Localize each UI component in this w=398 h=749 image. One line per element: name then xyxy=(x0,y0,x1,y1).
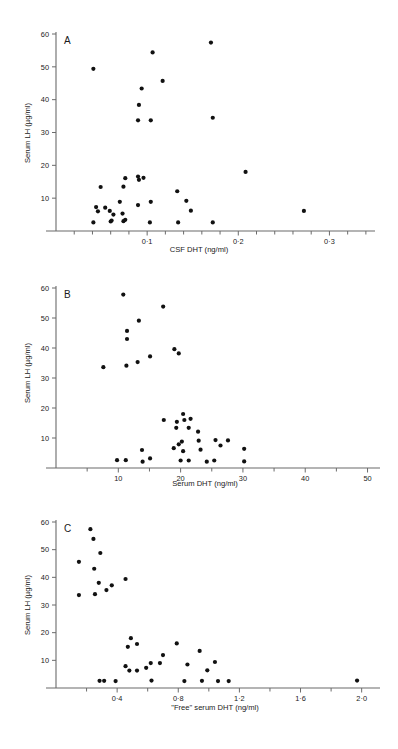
data-point xyxy=(181,449,185,453)
data-point xyxy=(243,170,247,174)
data-point xyxy=(188,417,192,421)
data-point xyxy=(140,86,144,90)
data-point xyxy=(218,443,222,447)
y-axis-tick-label: 50 xyxy=(41,545,49,554)
x-axis-title: CSF DHT (ng/ml) xyxy=(170,245,229,254)
data-point xyxy=(162,418,166,422)
data-point xyxy=(182,679,186,683)
data-point xyxy=(136,360,140,364)
data-point xyxy=(91,67,95,71)
data-point xyxy=(187,426,191,430)
data-point xyxy=(198,448,202,452)
data-point xyxy=(302,209,306,213)
data-point xyxy=(161,653,165,657)
panel-label: B xyxy=(64,289,71,300)
data-point xyxy=(212,458,216,462)
data-point xyxy=(121,293,125,297)
data-point xyxy=(110,218,114,222)
data-point xyxy=(148,456,152,460)
y-axis-title: Serum LH (µg/ml) xyxy=(23,342,32,403)
data-point xyxy=(184,199,188,203)
y-axis-tick-label: 20 xyxy=(41,628,49,637)
data-point xyxy=(136,203,140,207)
data-point xyxy=(123,577,127,581)
data-point xyxy=(118,200,122,204)
x-axis-title: "Free" serum DHT (ng/ml) xyxy=(171,703,259,712)
x-axis-tick-label: 40 xyxy=(301,474,309,483)
data-point xyxy=(174,426,178,430)
data-point xyxy=(136,118,140,122)
data-point xyxy=(172,446,176,450)
data-point xyxy=(242,459,246,463)
data-point xyxy=(96,209,100,213)
data-point xyxy=(149,661,153,665)
data-points xyxy=(77,527,359,683)
data-point xyxy=(158,661,162,665)
data-point xyxy=(161,79,165,83)
panel-label: A xyxy=(64,35,71,46)
x-axis-tick-label: 0·3 xyxy=(324,237,335,246)
y-axis-tick-label: 30 xyxy=(41,374,49,383)
data-point xyxy=(120,212,124,216)
data-point xyxy=(196,430,200,434)
x-axis-title: Serum DHT (ng/ml) xyxy=(172,479,238,488)
scatter-plot-c: 1020304050600·40·81·21·62·0"Free" serum … xyxy=(0,488,398,749)
data-point xyxy=(97,679,101,683)
data-point xyxy=(197,439,201,443)
data-point xyxy=(187,458,191,462)
x-axis-tick-label: 30 xyxy=(239,474,247,483)
data-point xyxy=(88,527,92,531)
y-axis-title: Serum LH (µg/ml) xyxy=(23,574,32,635)
data-point xyxy=(124,458,128,462)
data-point xyxy=(99,185,103,189)
y-axis-tick-label: 10 xyxy=(41,434,49,443)
y-axis-tick-label: 50 xyxy=(41,63,49,72)
data-point xyxy=(355,678,359,682)
data-point xyxy=(180,440,184,444)
data-point xyxy=(182,418,186,422)
panel-label: C xyxy=(64,523,71,534)
data-point xyxy=(91,537,95,541)
data-point xyxy=(205,668,209,672)
y-axis-tick-label: 60 xyxy=(41,30,49,39)
data-point xyxy=(175,189,179,193)
data-point xyxy=(91,220,95,224)
data-point xyxy=(213,438,217,442)
y-axis-tick-label: 20 xyxy=(41,161,49,170)
data-point xyxy=(149,678,153,682)
data-point xyxy=(148,354,152,358)
data-point xyxy=(198,649,202,653)
data-point xyxy=(149,118,153,122)
data-point xyxy=(94,205,98,209)
data-point xyxy=(125,337,129,341)
y-axis-tick-label: 30 xyxy=(41,128,49,137)
data-point xyxy=(114,679,118,683)
data-point xyxy=(211,116,215,120)
data-point xyxy=(137,319,141,323)
y-axis-title: Serum LH (µg/ml) xyxy=(23,102,32,163)
scatter-plot-a: 1020304050600·10·20·3CSF DHT (ng/ml)Seru… xyxy=(0,0,398,255)
data-point xyxy=(149,200,153,204)
data-point xyxy=(101,365,105,369)
scatter-plot-b: 1020304050601020304050Serum DHT (ng/ml)S… xyxy=(0,255,398,488)
y-axis-tick-label: 40 xyxy=(41,573,49,582)
data-point xyxy=(172,347,176,351)
data-point xyxy=(148,220,152,224)
data-point xyxy=(189,209,193,213)
data-point xyxy=(98,551,102,555)
x-axis-tick-label: 1·2 xyxy=(234,694,245,703)
data-point xyxy=(185,662,189,666)
data-point xyxy=(77,560,81,564)
data-point xyxy=(216,679,220,683)
y-axis-tick-label: 60 xyxy=(41,518,49,527)
data-point xyxy=(226,438,230,442)
y-axis-tick-label: 60 xyxy=(41,284,49,293)
data-point xyxy=(126,645,130,649)
data-point xyxy=(205,460,209,464)
data-points xyxy=(101,293,246,464)
data-point xyxy=(135,668,139,672)
data-point xyxy=(92,567,96,571)
data-point xyxy=(175,420,179,424)
data-point xyxy=(115,458,119,462)
x-axis-tick-label: 50 xyxy=(363,474,371,483)
